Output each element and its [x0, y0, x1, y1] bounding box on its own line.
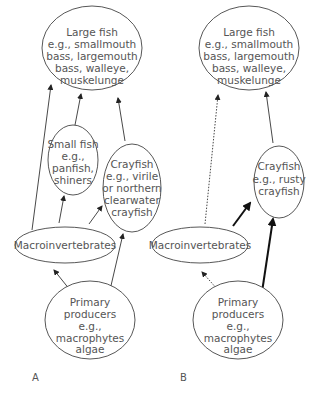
svg-text:producers: producers	[212, 308, 265, 320]
svg-text:panfish,: panfish,	[52, 162, 94, 174]
svg-text:crayfish: crayfish	[258, 185, 299, 197]
svg-text:Primary: Primary	[70, 296, 111, 308]
svg-text:Small fish: Small fish	[47, 138, 98, 150]
svg-text:bass, walleye,: bass, walleye,	[55, 62, 129, 74]
svg-text:bass, largemouth: bass, largemouth	[203, 50, 294, 62]
svg-text:e.g., smallmouth: e.g., smallmouth	[48, 38, 137, 50]
node-b-large-fish: Large fish e.g., smallmouth bass, largem…	[199, 6, 299, 90]
svg-text:Macroinvertebrates: Macroinvertebrates	[149, 239, 251, 251]
edge-b-macro-to-largefish	[205, 95, 218, 224]
svg-text:e.g., smallmouth: e.g., smallmouth	[205, 38, 294, 50]
node-b-macroinvertebrates: Macroinvertebrates	[149, 227, 251, 263]
edge-a-smallfish-to-largefish	[75, 94, 81, 125]
node-b-crayfish: Crayfish e.g., rusty crayfish	[252, 146, 305, 218]
svg-text:Large fish: Large fish	[66, 26, 118, 38]
svg-text:e.g., rusty: e.g., rusty	[252, 173, 305, 185]
svg-text:e.g.,: e.g.,	[226, 320, 249, 332]
node-a-large-fish: Large fish e.g., smallmouth bass, largem…	[42, 6, 142, 90]
node-a-small-fish: Small fish e.g., panfish, shiners	[47, 125, 98, 195]
edge-b-macro-to-crayfish	[233, 203, 250, 226]
svg-text:clearwater: clearwater	[104, 194, 161, 206]
svg-text:Large fish: Large fish	[223, 26, 275, 38]
svg-text:crayfish: crayfish	[111, 206, 152, 218]
panel-label-b: B	[180, 372, 187, 383]
svg-text:muskelunge: muskelunge	[60, 74, 124, 86]
node-a-primary-producers: Primary producers e.g., macrophytes alga…	[45, 281, 135, 359]
edge-a-crayfish-to-largefish	[118, 98, 125, 141]
svg-text:e.g., virile: e.g., virile	[106, 170, 158, 182]
node-a-macroinvertebrates: Macroinvertebrates	[14, 227, 116, 263]
svg-text:Crayfish: Crayfish	[110, 158, 153, 170]
svg-text:algae: algae	[224, 343, 253, 355]
food-web-diagram: Large fish e.g., smallmouth bass, largem…	[0, 0, 313, 397]
svg-text:Crayfish: Crayfish	[257, 160, 300, 172]
svg-text:Macroinvertebrates: Macroinvertebrates	[14, 239, 116, 251]
svg-text:or northern: or northern	[102, 182, 162, 194]
edge-a-macro-to-smallfish	[59, 196, 64, 223]
node-a-crayfish: Crayfish e.g., virile or northern clearw…	[102, 144, 162, 232]
edge-a-macro-to-crayfish	[89, 206, 102, 224]
svg-text:bass, walleye,: bass, walleye,	[212, 62, 286, 74]
panel-label-a: A	[32, 372, 39, 383]
svg-text:muskelunge: muskelunge	[217, 74, 281, 86]
svg-text:bass, largemouth: bass, largemouth	[46, 50, 137, 62]
edge-b-crayfish-to-largefish	[266, 92, 273, 143]
svg-text:producers: producers	[64, 308, 117, 320]
svg-text:algae: algae	[76, 343, 105, 355]
svg-text:shiners: shiners	[54, 174, 92, 186]
svg-text:e.g.,: e.g.,	[78, 320, 101, 332]
node-b-primary-producers: Primary producers e.g., macrophytes alga…	[193, 281, 283, 359]
svg-text:Primary: Primary	[218, 296, 259, 308]
edge-b-producers-to-crayfish	[262, 219, 273, 292]
svg-text:e.g.,: e.g.,	[61, 150, 84, 162]
